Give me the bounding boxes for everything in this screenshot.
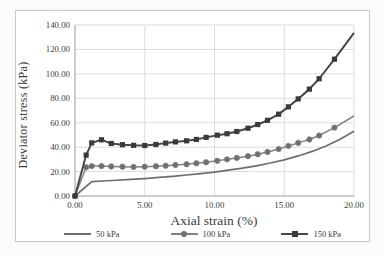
chart-canvas: 0.0020.0040.0060.0080.00100.00120.00140.… xyxy=(16,11,369,241)
data-point-marker xyxy=(120,142,125,147)
data-point-marker xyxy=(215,133,220,138)
x-tick-label: 20.00 xyxy=(344,200,364,210)
legend-swatch-50kpa xyxy=(64,230,91,238)
y-tick-label: 140.00 xyxy=(46,20,71,30)
data-point-marker xyxy=(255,122,260,127)
series-layer xyxy=(72,33,354,199)
data-point-marker xyxy=(296,140,301,145)
data-point-marker xyxy=(153,142,158,147)
data-point-marker xyxy=(89,163,94,168)
y-tick-label: 60.00 xyxy=(50,118,70,128)
data-point-marker xyxy=(296,96,301,101)
data-point-marker xyxy=(316,133,321,138)
legend-item-100kpa: 100 kPa xyxy=(171,229,231,239)
grid-layer xyxy=(75,25,354,196)
data-point-marker xyxy=(215,158,220,163)
x-tick-label: 5.00 xyxy=(137,200,153,210)
data-point-marker xyxy=(72,193,77,198)
data-point-marker xyxy=(224,131,229,136)
data-point-marker xyxy=(245,153,250,158)
y-tick-label: 20.00 xyxy=(50,167,70,177)
data-point-marker xyxy=(142,164,147,169)
data-point-marker xyxy=(153,164,158,169)
data-point-marker xyxy=(265,149,270,154)
data-point-marker xyxy=(163,163,168,168)
data-point-marker xyxy=(184,162,189,167)
chart-frame: 0.0020.0040.0060.0080.00100.00120.00140.… xyxy=(15,10,370,242)
data-point-marker xyxy=(204,135,209,140)
x-tick-label: 0.00 xyxy=(67,200,83,210)
y-tick-label: 100.00 xyxy=(46,69,71,79)
data-point-marker xyxy=(307,137,312,142)
data-point-marker xyxy=(173,139,178,144)
data-point-marker xyxy=(276,112,281,117)
data-point-marker xyxy=(89,140,94,145)
page-background: { "colors": { "frame_border": "#c9c9c9",… xyxy=(0,0,384,256)
legend-item-50kpa: 50 kPa xyxy=(64,229,119,239)
data-point-marker xyxy=(99,163,104,168)
legend-item-150kpa: 150 kPa xyxy=(281,229,341,239)
data-point-marker xyxy=(255,152,260,157)
data-point-marker xyxy=(317,76,322,81)
data-point-marker xyxy=(203,160,208,165)
legend-swatch-100kpa xyxy=(171,230,198,238)
y-tick-label: 80.00 xyxy=(50,93,70,103)
square-marker-icon xyxy=(292,231,298,237)
x-tick-label: 10.00 xyxy=(205,200,225,210)
legend-label-50kpa: 50 kPa xyxy=(96,229,119,239)
data-point-marker xyxy=(99,137,104,142)
data-point-marker xyxy=(265,118,270,123)
data-point-marker xyxy=(109,164,114,169)
data-point-marker xyxy=(332,125,337,130)
y-axis-title: Deviator stress (kPa) xyxy=(16,62,30,169)
data-point-marker xyxy=(332,57,337,62)
legend-label-150kpa: 150 kPa xyxy=(313,229,341,239)
data-point-marker xyxy=(234,155,239,160)
legend-label-100kpa: 100 kPa xyxy=(203,229,231,239)
data-point-marker xyxy=(194,137,199,142)
data-point-marker xyxy=(286,143,291,148)
y-tick-label: 40.00 xyxy=(50,142,70,152)
data-point-marker xyxy=(84,152,89,157)
data-point-marker xyxy=(307,87,312,92)
legend-swatch-150kpa xyxy=(281,230,308,238)
data-point-marker xyxy=(173,162,178,167)
data-point-marker xyxy=(131,164,136,169)
data-point-marker xyxy=(224,157,229,162)
data-point-marker xyxy=(184,138,189,143)
data-point-marker xyxy=(109,141,114,146)
data-point-marker xyxy=(245,126,250,131)
data-point-marker xyxy=(142,143,147,148)
data-point-marker xyxy=(234,129,239,134)
legend: 50 kPa 100 kPa 150 kPa xyxy=(64,228,341,239)
data-point-marker xyxy=(120,164,125,169)
data-point-marker xyxy=(286,104,291,109)
x-tick-label: 15.00 xyxy=(274,200,294,210)
data-point-marker xyxy=(194,161,199,166)
data-point-marker xyxy=(276,146,281,151)
x-axis-title: Axial strain (%) xyxy=(171,213,258,228)
y-tick-label: 120.00 xyxy=(46,44,71,54)
data-point-marker xyxy=(131,143,136,148)
circle-marker-icon xyxy=(181,231,187,237)
data-point-marker xyxy=(163,141,168,146)
